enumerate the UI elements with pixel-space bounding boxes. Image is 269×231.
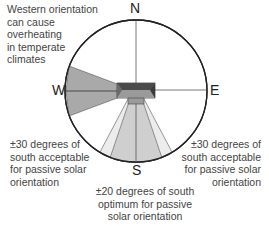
optimum-annotation: ±20 degrees of south optimum for passive… xyxy=(86,185,204,223)
south-label: S xyxy=(132,162,141,178)
acceptable-left-annotation: ±30 degrees of south acceptable for pass… xyxy=(10,138,89,188)
acceptable-right-annotation: ±30 degrees of south acceptable for pass… xyxy=(182,138,261,188)
north-label: N xyxy=(130,0,140,16)
west-warning-annotation: Western orientation can cause overheatin… xyxy=(7,3,98,66)
east-label: E xyxy=(210,82,219,98)
west-label: W xyxy=(52,82,65,98)
